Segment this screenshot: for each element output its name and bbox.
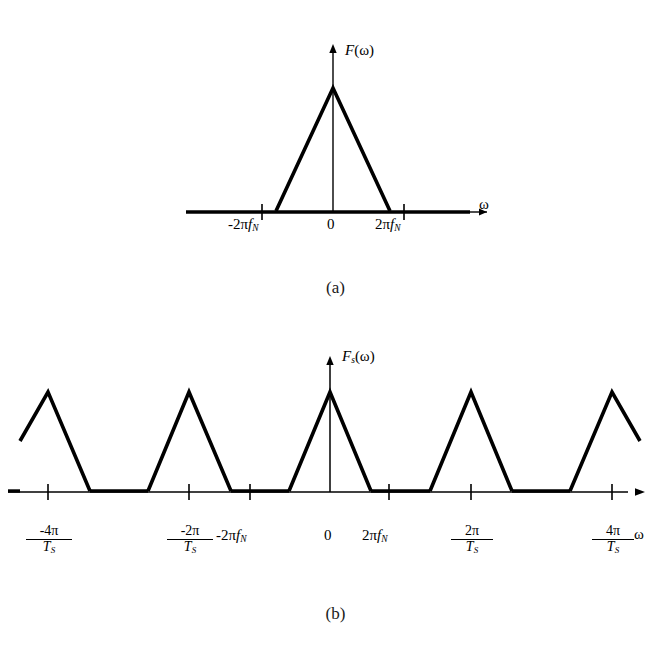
panel-a-y-axis-label: F(ω) xyxy=(345,42,374,59)
panel-a-plot xyxy=(0,0,671,270)
panel-b-ticklabel-neg2pifn: -2πfN xyxy=(216,527,247,544)
panel-b-ticklabel-pos4pi-ts: 4π TS xyxy=(592,524,634,555)
panel-a-ticklabel-pos2pifn: 2πfN xyxy=(375,216,401,233)
panel-b-ticklabel-zero: 0 xyxy=(324,527,332,544)
panel-b-ticklabel-pos2pi-ts: 2π TS xyxy=(451,524,493,555)
panel-b-plot xyxy=(0,350,671,550)
panel-b-triangle-replica-minus1 xyxy=(148,392,231,491)
figure-sampling-spectra: F(ω) ω -2πfN 0 2πfN (a) Fs(ω) ω -4π xyxy=(0,0,671,665)
panel-b-ticklabel-pos2pifn: 2πfN xyxy=(362,527,388,544)
panel-a-caption: (a) xyxy=(0,278,671,298)
panel-b-triangle-replica-minus2 xyxy=(20,392,90,491)
panel-b-triangle-replica-plus1 xyxy=(430,392,512,491)
panel-b-y-axis-arrowhead xyxy=(326,356,333,365)
panel-b-ticklabel-neg4pi-ts: -4π TS xyxy=(26,524,72,555)
panel-b-x-axis-arrowhead xyxy=(635,488,645,496)
panel-a-ticklabel-neg2pifn: -2πfN xyxy=(228,216,259,233)
panel-a-y-axis-arrowhead xyxy=(329,44,336,53)
panel-b-caption: (b) xyxy=(0,604,671,624)
panel-b-ticklabel-neg2pi-ts: -2π TS xyxy=(167,524,213,555)
panel-b-y-axis-label: Fs(ω) xyxy=(342,348,375,365)
panel-b-triangle-replica-plus2 xyxy=(570,392,640,491)
panel-b-x-axis-label: ω xyxy=(634,526,644,543)
panel-a-ticklabel-zero: 0 xyxy=(327,216,335,233)
panel-a-x-axis-label: ω xyxy=(479,196,489,213)
